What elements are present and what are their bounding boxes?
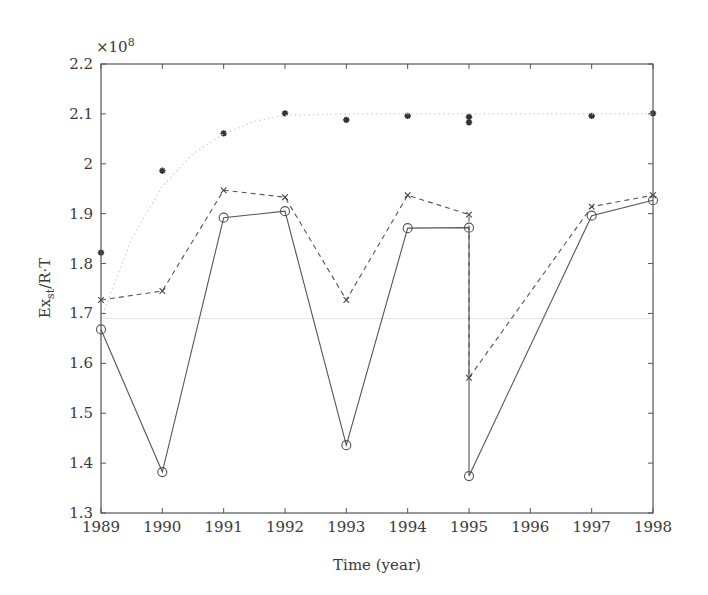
x-marker — [160, 288, 166, 294]
y-axis: 1.31.41.51.61.71.81.922.12.2 — [69, 55, 653, 522]
y-tick-label: 1.3 — [69, 504, 93, 522]
x-tick-label: 1992 — [266, 518, 304, 536]
x-tick-label: 1997 — [573, 518, 611, 536]
asterisk-marker — [588, 113, 594, 119]
series-line — [101, 114, 653, 319]
series-line — [101, 190, 653, 378]
series-solid-circle-series — [97, 196, 658, 481]
y-tick-label: 2.2 — [69, 55, 93, 73]
asterisk-marker — [466, 119, 472, 125]
series-group — [97, 110, 658, 480]
x-tick-label: 1994 — [389, 518, 427, 536]
line-chart: 1989199019911992199319941995199619971998… — [0, 0, 708, 595]
x-axis: 1989199019911992199319941995199619971998 — [82, 64, 672, 536]
x-marker — [282, 194, 288, 200]
y-axis-label: Exst/R·T — [36, 258, 57, 319]
y-tick-label: 2.1 — [69, 105, 93, 123]
x-tick-label: 1990 — [143, 518, 181, 536]
y-tick-label: 1.6 — [69, 354, 93, 372]
x-tick-label: 1995 — [450, 518, 488, 536]
y-tick-label: 1.8 — [69, 255, 93, 273]
x-tick-label: 1996 — [511, 518, 549, 536]
series-dashed-x-marker-series — [98, 187, 656, 380]
series-star-markers — [98, 110, 656, 256]
x-marker — [344, 297, 350, 303]
plot-frame — [101, 64, 653, 513]
series-line — [101, 200, 653, 476]
y-tick-label: 1.9 — [69, 205, 93, 223]
x-tick-label: 1991 — [205, 518, 243, 536]
series-dotted-fit-curve — [101, 114, 653, 319]
asterisk-marker — [343, 117, 349, 123]
asterisk-marker — [282, 110, 288, 116]
asterisk-marker — [466, 114, 472, 120]
y-axis-multiplier: ×108 — [96, 36, 135, 56]
x-tick-label: 1993 — [327, 518, 365, 536]
x-tick-label: 1998 — [634, 518, 672, 536]
y-tick-label: 2 — [83, 155, 93, 173]
y-tick-label: 1.5 — [69, 404, 93, 422]
y-tick-label: 1.7 — [69, 304, 93, 322]
y-tick-label: 1.4 — [69, 454, 93, 472]
x-marker — [405, 192, 411, 198]
asterisk-marker — [159, 168, 165, 174]
x-axis-label: Time (year) — [333, 556, 421, 574]
